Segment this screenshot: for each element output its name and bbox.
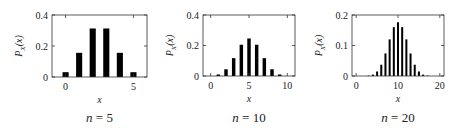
bar: [117, 53, 123, 77]
x-tick-label: 5: [247, 80, 252, 91]
x-tick-label: 0: [63, 81, 68, 92]
bar: [76, 53, 82, 77]
x-tick-label: 5: [131, 81, 136, 92]
y-tick-label: 0.4: [36, 10, 49, 21]
bars: [63, 28, 137, 77]
axes-frame: [52, 15, 147, 77]
bar: [240, 45, 243, 76]
bar: [263, 58, 266, 76]
x-tick-label: 10: [282, 80, 292, 91]
bar: [384, 53, 386, 76]
panel-caption: n = 5: [86, 110, 113, 125]
bar: [401, 27, 403, 76]
y-axis-label: PX(x): [313, 34, 327, 57]
x-tick-label: 0: [354, 80, 359, 91]
bar: [414, 65, 416, 76]
x-tick-label: 0: [208, 80, 213, 91]
x-tick-label: 10: [393, 80, 403, 91]
bar: [418, 71, 420, 76]
x-axis-label: x: [96, 94, 102, 105]
bar: [376, 71, 378, 76]
bar: [255, 45, 258, 76]
y-tick-label: 0: [343, 71, 348, 82]
bar: [410, 53, 412, 76]
bar: [405, 39, 407, 76]
panel-n5: 00.20.405xPX(x)n = 5: [13, 10, 147, 126]
y-axis-label: PX(x): [164, 34, 178, 57]
panel-n20: 00.10.201020xPX(x)n = 20: [313, 10, 445, 126]
bar: [90, 28, 96, 77]
panel-caption: n = 10: [232, 110, 265, 125]
x-tick-label: 20: [435, 80, 445, 91]
y-tick-label: 0: [194, 71, 199, 82]
y-axis-label: PX(x): [13, 35, 27, 58]
bar: [397, 22, 399, 76]
y-tick-label: 0.4: [187, 10, 200, 21]
y-tick-label: 0.2: [36, 41, 49, 52]
binomial-pmf-figure: 00.20.405xPX(x)n = 5 00.20.40510xPX(x)n …: [0, 0, 461, 130]
bar: [224, 69, 227, 76]
y-tick-label: 0.2: [187, 40, 200, 51]
y-tick-label: 0.1: [336, 40, 349, 51]
bar: [380, 65, 382, 76]
y-tick-label: 0: [43, 72, 48, 83]
y-tick-label: 0.2: [336, 10, 349, 21]
bars: [368, 22, 429, 76]
panel-caption: n = 20: [381, 110, 414, 125]
bar: [393, 27, 395, 76]
bar: [103, 28, 109, 77]
x-axis-label: x: [246, 93, 252, 104]
bars: [217, 38, 282, 76]
bar: [270, 69, 273, 76]
bar: [389, 39, 391, 76]
bar: [232, 58, 235, 76]
bar: [247, 38, 250, 76]
panel-n10: 00.20.40510xPX(x)n = 10: [164, 10, 295, 126]
x-axis-label: x: [395, 93, 401, 104]
